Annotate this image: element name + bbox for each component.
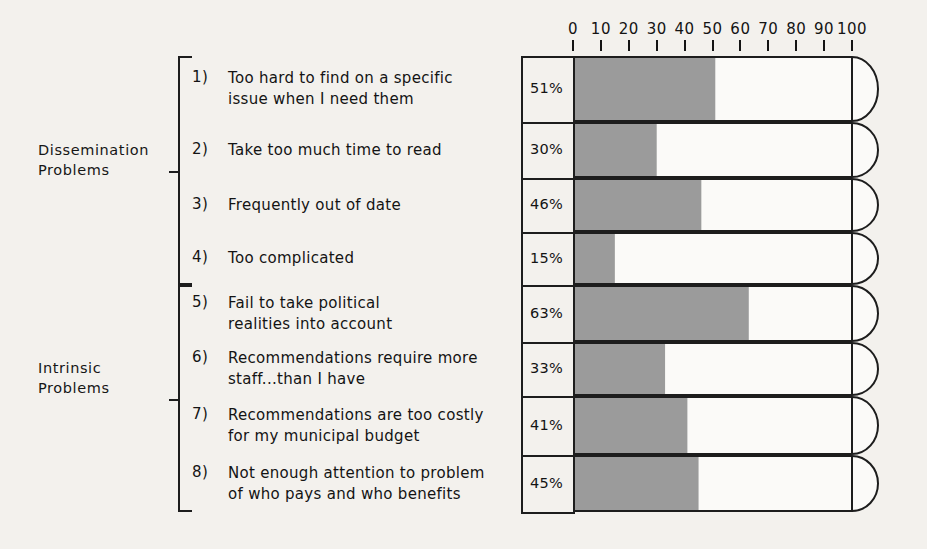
bar-fill [574, 57, 715, 121]
bar [573, 455, 884, 512]
chart-row: 7)Recommendations are too costly for my … [0, 396, 927, 455]
chart-row: 4)Too complicated15% [0, 232, 927, 285]
bar-fill [574, 233, 615, 284]
row-label: Too complicated [228, 248, 518, 269]
bar-fill [574, 286, 749, 341]
percent-column-divider [521, 512, 575, 514]
row-percentage-label: 63% [530, 305, 563, 321]
percent-column-divider [521, 56, 575, 58]
percent-column-divider [521, 396, 575, 398]
percent-column-divider [521, 455, 575, 457]
row-number: 4) [192, 248, 208, 266]
row-label: Recommendations are too costly for my mu… [228, 405, 518, 447]
row-label: Not enough attention to problem of who p… [228, 463, 518, 505]
bar-fill [574, 397, 687, 454]
chart-row: 5)Fail to take political realities into … [0, 285, 927, 342]
bar [573, 56, 884, 122]
x-axis-tick-label: 100 [837, 20, 867, 38]
x-axis-labels: 0102030405060708090100 [0, 20, 927, 40]
percent-column-divider [521, 342, 575, 344]
x-axis-tick-mark [712, 40, 714, 51]
bar-graphic [573, 396, 884, 455]
x-axis-tick-label: 30 [647, 20, 667, 38]
chart-row: 1)Too hard to find on a specific issue w… [0, 56, 927, 122]
bar [573, 178, 884, 232]
bar [573, 285, 884, 342]
x-axis-tick-mark [795, 40, 797, 51]
percent-column-divider [521, 122, 575, 124]
bar-fill [574, 343, 665, 395]
x-axis-ticks [0, 40, 927, 51]
chart-row: 8)Not enough attention to problem of who… [0, 455, 927, 512]
chart-row: 6)Recommendations require more staff...t… [0, 342, 927, 396]
row-label: Too hard to find on a specific issue whe… [228, 68, 518, 110]
chart-row: 3)Frequently out of date46% [0, 178, 927, 232]
bar-graphic [573, 122, 884, 178]
bar-graphic [573, 232, 884, 285]
row-number: 2) [192, 140, 208, 158]
row-percentage-label: 46% [530, 196, 563, 212]
percent-column-divider [521, 178, 575, 180]
bar-fill [574, 456, 699, 511]
x-axis-tick-label: 60 [730, 20, 750, 38]
bar-fill [574, 123, 657, 177]
bar [573, 396, 884, 455]
row-percentage-label: 41% [530, 417, 563, 433]
x-axis-tick-label: 50 [702, 20, 722, 38]
row-number: 7) [192, 405, 208, 423]
row-percentage-label: 15% [530, 250, 563, 266]
row-percentage-label: 33% [530, 360, 563, 376]
row-number: 3) [192, 195, 208, 213]
x-axis-tick-mark [600, 40, 602, 51]
x-axis-tick-label: 90 [814, 20, 834, 38]
row-percentage-label: 45% [530, 475, 563, 491]
row-percentage-label: 51% [530, 80, 563, 96]
x-axis-tick-mark [572, 40, 574, 51]
survey-bar-chart: 0102030405060708090100 Dissemination Pro… [0, 0, 927, 549]
row-number: 8) [192, 463, 208, 481]
row-label: Frequently out of date [228, 195, 518, 216]
bar-graphic [573, 455, 884, 512]
bar-fill [574, 179, 701, 231]
row-number: 1) [192, 68, 208, 86]
chart-row: 2)Take too much time to read30% [0, 122, 927, 178]
row-label: Recommendations require more staff...tha… [228, 348, 518, 390]
x-axis-tick-label: 70 [758, 20, 778, 38]
row-percentage-label: 30% [530, 141, 563, 157]
x-axis-tick-label: 80 [786, 20, 806, 38]
bar [573, 342, 884, 396]
x-axis-tick-mark [656, 40, 658, 51]
bar [573, 232, 884, 285]
percent-column-divider [521, 285, 575, 287]
row-label: Fail to take political realities into ac… [228, 293, 518, 335]
x-axis-tick-mark [739, 40, 741, 51]
row-number: 5) [192, 293, 208, 311]
bar-graphic [573, 285, 884, 342]
bar [573, 122, 884, 178]
bar-graphic [573, 178, 884, 232]
x-axis-tick-mark [684, 40, 686, 51]
row-label: Take too much time to read [228, 140, 518, 161]
bar-graphic [573, 56, 884, 122]
x-axis-tick-label: 40 [675, 20, 695, 38]
x-axis-tick-label: 20 [619, 20, 639, 38]
percent-column-divider [521, 232, 575, 234]
x-axis-tick-mark [628, 40, 630, 51]
x-axis-tick-mark [823, 40, 825, 51]
bar-graphic [573, 342, 884, 396]
x-axis-tick-mark [851, 40, 853, 51]
x-axis-tick-label: 0 [568, 20, 578, 38]
row-number: 6) [192, 348, 208, 366]
x-axis-tick-label: 10 [591, 20, 611, 38]
percent-column-border [521, 56, 523, 512]
x-axis-tick-mark [767, 40, 769, 51]
